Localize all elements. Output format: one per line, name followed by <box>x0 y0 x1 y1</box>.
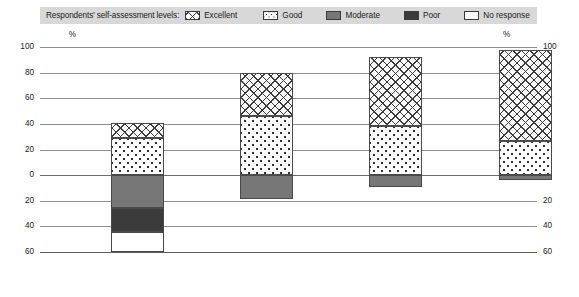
legend-title: Respondents' self-assessment levels: <box>46 11 179 20</box>
bar-segment-level-3-moderate <box>369 175 422 187</box>
y-tick-left-100: 100 <box>4 42 34 51</box>
gridline-60 <box>40 252 537 253</box>
legend: Respondents' self-assessment levels: Exc… <box>40 7 537 24</box>
bar-segment-level-4-5-good <box>499 141 552 176</box>
y-tick-right-40: 40 <box>543 221 573 230</box>
y-tick-left-20: 20 <box>4 145 34 154</box>
y-tick-left-20: 20 <box>4 196 34 205</box>
y-tick-left-80: 80 <box>4 68 34 77</box>
gridline-100 <box>40 47 537 48</box>
legend-item-moderate: Moderate <box>326 11 380 20</box>
bar-segment-level-2-excellent <box>240 73 293 117</box>
legend-item-no-response: No response <box>464 11 529 20</box>
bar-segment-level-1-poor <box>111 208 164 231</box>
bar-segment-level-2-moderate <box>240 175 293 199</box>
y-tick-left-40: 40 <box>4 119 34 128</box>
bar-segment-level-3-excellent <box>369 57 422 126</box>
y-tick-left-60: 60 <box>4 93 34 102</box>
y-tick-left-0: 0 <box>4 170 34 179</box>
legend-swatch-excellent-icon <box>185 11 200 20</box>
legend-item-poor: Poor <box>404 11 440 20</box>
y-tick-left-60: 60 <box>4 247 34 256</box>
legend-label-poor: Poor <box>423 11 440 20</box>
legend-label-moderate: Moderate <box>345 11 380 20</box>
legend-label-excellent: Excellent <box>204 11 237 20</box>
legend-label-good: Good <box>282 11 302 20</box>
y-tick-right-60: 60 <box>543 247 573 256</box>
chart-plot-area: 100806040200204060 100806040200204060 Le… <box>40 47 537 252</box>
y-axis-unit-left: % <box>46 30 76 39</box>
bar-segment-level-1-moderate <box>111 175 164 208</box>
y-tick-left-40: 40 <box>4 221 34 230</box>
bar-segment-level-4-5-moderate <box>499 175 552 180</box>
bar-segment-level-3-good <box>369 126 422 175</box>
legend-item-excellent: Excellent <box>185 11 237 20</box>
legend-swatch-moderate-icon <box>326 11 341 20</box>
legend-item-good: Good <box>263 11 302 20</box>
legend-swatch-no-response-icon <box>464 11 479 20</box>
bar-segment-level-1-excellent <box>111 123 164 138</box>
bar-segment-level-1-good <box>111 138 164 175</box>
y-axis-unit-right: % <box>503 30 533 39</box>
legend-label-no-response: No response <box>483 11 529 20</box>
bar-segment-level-4-5-excellent <box>499 50 552 141</box>
y-tick-right-20: 20 <box>543 196 573 205</box>
bar-segment-level-2-good <box>240 116 293 175</box>
legend-swatch-poor-icon <box>404 11 419 20</box>
bar-segment-level-1-no-response <box>111 232 164 253</box>
legend-swatch-good-icon <box>263 11 278 20</box>
